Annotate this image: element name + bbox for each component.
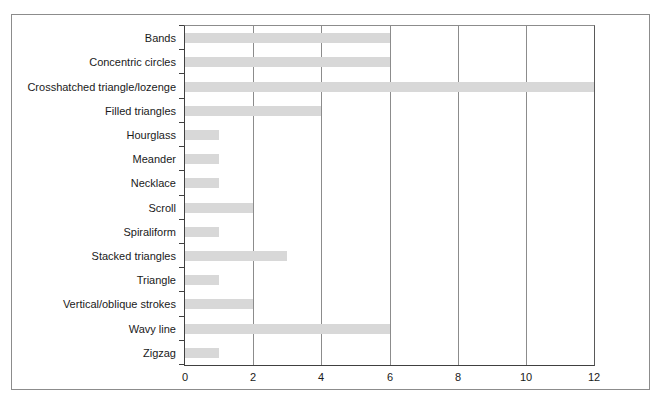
chart-frame: BandsConcentric circlesCrosshatched tria… (11, 14, 650, 390)
category-axis-tick (179, 340, 184, 341)
bar-hourglass (185, 130, 219, 140)
bar-scroll (185, 203, 253, 213)
category-label-filled-triangles: Filled triangles (12, 104, 176, 118)
category-axis-tick (179, 219, 184, 220)
value-axis-label-12: 12 (569, 370, 619, 384)
category-label-triangle: Triangle (12, 273, 176, 287)
bar-meander (185, 154, 219, 164)
bar-wavy-line (185, 324, 390, 334)
plot-area (184, 25, 595, 366)
category-axis-tick (179, 195, 184, 196)
category-axis-tick (179, 98, 184, 99)
value-axis-label-8: 8 (433, 370, 483, 384)
bar-concentric-circles (185, 57, 390, 67)
category-axis-tick (179, 316, 184, 317)
category-label-crosshatched-triangle-lozenge: Crosshatched triangle/lozenge (12, 80, 176, 94)
value-axis-label-0: 0 (160, 370, 210, 384)
bar-vertical-oblique-strokes (185, 299, 253, 309)
bar-bands (185, 33, 390, 43)
category-label-concentric-circles: Concentric circles (12, 55, 176, 69)
category-axis-tick (179, 243, 184, 244)
value-axis-label-10: 10 (501, 370, 551, 384)
category-label-necklace: Necklace (12, 176, 176, 190)
value-axis-label-6: 6 (365, 370, 415, 384)
category-axis-tick (179, 122, 184, 123)
category-axis-tick (179, 25, 184, 26)
category-label-zigzag: Zigzag (12, 346, 176, 360)
category-axis-tick (179, 73, 184, 74)
category-axis-tick (179, 291, 184, 292)
gridline-10 (526, 26, 527, 365)
category-label-meander: Meander (12, 152, 176, 166)
gridline-2 (253, 26, 254, 365)
bar-triangle (185, 275, 219, 285)
category-axis-tick (179, 364, 184, 365)
gridline-8 (458, 26, 459, 365)
category-label-scroll: Scroll (12, 201, 176, 215)
bar-stacked-triangles (185, 251, 287, 261)
gridline-6 (390, 26, 391, 365)
bar-filled-triangles (185, 106, 321, 116)
category-axis-tick (179, 267, 184, 268)
category-label-bands: Bands (12, 31, 176, 45)
gridline-4 (321, 26, 322, 365)
bar-crosshatched-triangle-lozenge (185, 82, 594, 92)
category-label-stacked-triangles: Stacked triangles (12, 249, 176, 263)
category-label-spiraliform: Spiraliform (12, 225, 176, 239)
category-axis-tick (179, 49, 184, 50)
category-label-hourglass: Hourglass (12, 128, 176, 142)
bar-zigzag (185, 348, 219, 358)
category-label-wavy-line: Wavy line (12, 322, 176, 336)
bar-spiraliform (185, 227, 219, 237)
category-axis-tick (179, 146, 184, 147)
value-axis-label-4: 4 (296, 370, 346, 384)
category-label-vertical-oblique-strokes: Vertical/oblique strokes (12, 297, 176, 311)
value-axis-label-2: 2 (228, 370, 278, 384)
category-axis-tick (179, 170, 184, 171)
bar-necklace (185, 178, 219, 188)
